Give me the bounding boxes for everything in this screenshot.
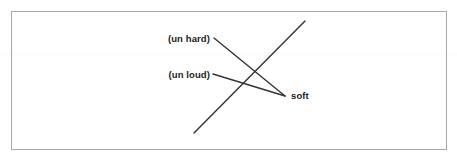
figure-page: (un hard) (un loud) soft bbox=[0, 0, 457, 160]
leader-line-un-hard-to-soft bbox=[214, 38, 285, 96]
label-soft: soft bbox=[291, 91, 309, 101]
label-un-loud: (un loud) bbox=[168, 70, 210, 80]
label-un-hard: (un hard) bbox=[168, 34, 210, 44]
long-diagonal-stroke bbox=[194, 21, 305, 133]
diagram-lines bbox=[0, 0, 457, 160]
